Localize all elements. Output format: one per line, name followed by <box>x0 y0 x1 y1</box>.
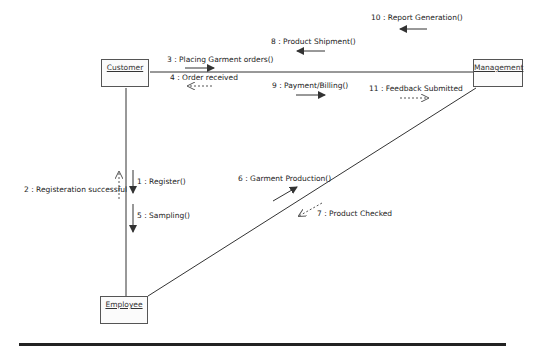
link-employee-management <box>148 88 476 296</box>
message-label-8: 8 : Product Shipment() <box>271 37 356 46</box>
object-customer[interactable]: Customer <box>101 59 149 87</box>
arrow-6 <box>273 187 297 201</box>
message-label-2: 2 : Registeration successful <box>24 185 127 194</box>
message-label-4: 4 : Order received <box>170 73 238 82</box>
message-label-6: 6 : Garment Production() <box>238 174 331 183</box>
message-label-7: 7 : Product Checked <box>317 209 392 218</box>
message-label-9: 9 : Payment/Billing() <box>272 81 348 90</box>
message-label-5: 5 : Sampling() <box>137 211 190 220</box>
object-employee-label: Employee <box>101 300 147 309</box>
object-management-label: Management <box>474 63 522 72</box>
message-label-3: 3 : Placing Garment orders() <box>167 55 274 64</box>
object-management[interactable]: Management <box>473 59 523 87</box>
message-label-11: 11 : Feedback Submitted <box>369 84 463 93</box>
message-label-10: 10 : Report Generation() <box>371 13 463 22</box>
bottom-rule <box>19 343 506 346</box>
message-label-1: 1 : Register() <box>137 177 186 186</box>
object-employee[interactable]: Employee <box>100 296 148 324</box>
object-customer-label: Customer <box>102 63 148 72</box>
